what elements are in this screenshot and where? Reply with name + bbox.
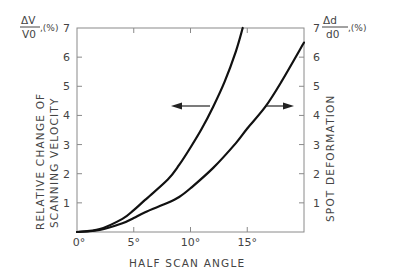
deformation-curve xyxy=(77,43,304,232)
velocity-curve xyxy=(77,28,243,232)
y-tick-label-right: 3 xyxy=(313,139,320,152)
y-tick-label-right: 6 xyxy=(313,51,320,64)
y-tick-label-left: 6 xyxy=(63,51,70,64)
x-tick-label: 15° xyxy=(238,236,258,249)
left-axis-arrow xyxy=(171,103,210,110)
right-unit-suffix: ,(%) xyxy=(348,23,366,33)
y-tick-label-right: 1 xyxy=(313,197,320,210)
y-tick-label-left: 1 xyxy=(63,197,70,210)
y-tick-label-left: 7 xyxy=(63,22,70,35)
y-tick-label-right: 2 xyxy=(313,168,320,181)
y-tick-label-left: 4 xyxy=(63,109,70,122)
y-tick-label-right: 5 xyxy=(313,80,320,93)
right-axis-arrow xyxy=(266,103,294,110)
right-axis-unit: Δd d0 ,(%) xyxy=(322,14,366,40)
arrowhead-right-icon xyxy=(283,103,294,110)
x-tick-label: 5° xyxy=(128,236,141,249)
left-unit-denominator: V0 xyxy=(22,28,36,40)
right-unit-denominator: d0 xyxy=(326,28,339,40)
y-tick-label-left: 2 xyxy=(63,168,70,181)
left-axis-title-line1: RELATIVE CHANGE OF xyxy=(34,93,46,230)
y-tick-label-left: 3 xyxy=(63,139,70,152)
y-tick-label-left: 5 xyxy=(63,80,70,93)
x-tick-label: 10° xyxy=(181,236,201,249)
x-tick-label: 0° xyxy=(73,236,86,249)
right-axis-title: SPOT DEFORMATION xyxy=(324,94,336,222)
left-axis-unit: ΔV V0 ,(%) xyxy=(20,14,58,40)
tick-labels: 0°5°10°15°12345671234567 xyxy=(63,22,320,249)
right-unit-numerator: Δd xyxy=(323,14,337,26)
left-axis-title-line2: SCANNING VELOCITY xyxy=(48,97,60,228)
axis-ticks xyxy=(77,28,304,232)
chart: 0°5°10°15°12345671234567 ΔV V0 ,(%) Δd d… xyxy=(0,0,394,274)
left-unit-suffix: ,(%) xyxy=(40,23,58,33)
x-axis-title: HALF SCAN ANGLE xyxy=(129,257,245,269)
plot-frame xyxy=(77,28,304,232)
y-tick-label-right: 4 xyxy=(313,109,320,122)
arrowhead-left-icon xyxy=(171,103,182,110)
y-tick-label-right: 7 xyxy=(313,22,320,35)
left-unit-numerator: ΔV xyxy=(21,14,36,26)
